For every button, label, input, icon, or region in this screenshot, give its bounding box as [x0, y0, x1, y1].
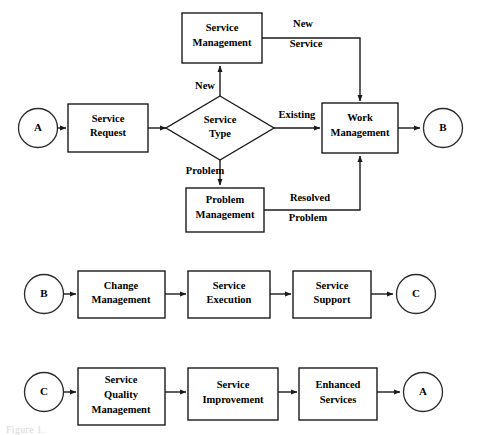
node-service-execution[interactable]: Service Execution — [188, 271, 270, 318]
edge-label-existing: Existing — [279, 109, 317, 120]
node-connector-b-end[interactable]: B — [424, 109, 463, 148]
node-connector-a-end-label: A — [419, 385, 427, 397]
enhanced-services-label-line1: Enhanced — [316, 379, 361, 390]
service-management-label-line1: Service — [206, 22, 239, 33]
service-request-label-line1: Service — [92, 113, 125, 124]
problem-management-label-line2: Management — [196, 209, 255, 220]
edge-label-new-service-line1: New — [293, 18, 313, 29]
edge-label-new: New — [195, 80, 215, 91]
node-change-management[interactable]: Change Management — [78, 271, 165, 318]
node-connector-c-end-label: C — [412, 287, 420, 299]
edge-label-resolved-problem-line2: Problem — [289, 212, 328, 223]
service-execution-label-line2: Execution — [207, 294, 252, 305]
node-work-management[interactable]: Work Management — [322, 103, 398, 153]
problem-management-label-line1: Problem — [206, 194, 245, 205]
change-management-label-line1: Change — [104, 280, 139, 291]
service-quality-management-label-line3: Management — [92, 404, 151, 415]
node-service-quality-management[interactable]: Service Quality Management — [78, 368, 165, 425]
node-service-management[interactable]: Service Management — [182, 13, 262, 63]
node-connector-a-start[interactable]: A — [19, 109, 58, 148]
flowchart-canvas: A Service Request Service Type New Servi… — [0, 0, 477, 435]
service-type-label-line2: Type — [209, 128, 231, 139]
node-connector-b-start-label: B — [40, 287, 48, 299]
flowchart-diagram: A Service Request Service Type New Servi… — [0, 0, 477, 435]
work-management-label-line1: Work — [347, 112, 373, 123]
node-service-request[interactable]: Service Request — [68, 104, 148, 152]
edge-label-new-service-line2: Service — [290, 38, 323, 49]
change-management-label-line2: Management — [92, 294, 151, 305]
service-quality-management-label-line2: Quality — [104, 389, 139, 400]
work-management-label-line2: Management — [331, 127, 390, 138]
service-improvement-label-line1: Service — [217, 379, 250, 390]
service-improvement-label-line2: Improvement — [202, 394, 264, 405]
node-connector-a-start-label: A — [34, 121, 42, 133]
edge-label-resolved-problem-line1: Resolved — [290, 192, 330, 203]
node-problem-management[interactable]: Problem Management — [186, 188, 264, 232]
node-service-type[interactable]: Service Type — [166, 96, 274, 160]
node-enhanced-services[interactable]: Enhanced Services — [299, 368, 377, 420]
node-service-support[interactable]: Service Support — [293, 271, 371, 318]
node-connector-c-start[interactable]: C — [25, 373, 64, 412]
node-service-improvement[interactable]: Service Improvement — [188, 368, 278, 420]
service-type-label-line1: Service — [204, 114, 237, 125]
figure-caption: Figure 1. — [6, 424, 45, 435]
edge-label-problem: Problem — [186, 165, 225, 176]
node-connector-c-end[interactable]: C — [397, 275, 436, 314]
service-support-label-line1: Service — [316, 280, 349, 291]
node-connector-c-start-label: C — [40, 385, 48, 397]
service-request-label-line2: Request — [90, 127, 127, 138]
enhanced-services-label-line2: Services — [320, 394, 357, 405]
node-connector-b-end-label: B — [439, 121, 447, 133]
node-connector-b-start[interactable]: B — [25, 275, 64, 314]
service-support-label-line2: Support — [314, 294, 351, 305]
service-execution-label-line1: Service — [213, 280, 246, 291]
service-management-label-line2: Management — [193, 37, 252, 48]
service-quality-management-label-line1: Service — [105, 374, 138, 385]
node-connector-a-end[interactable]: A — [404, 373, 443, 412]
